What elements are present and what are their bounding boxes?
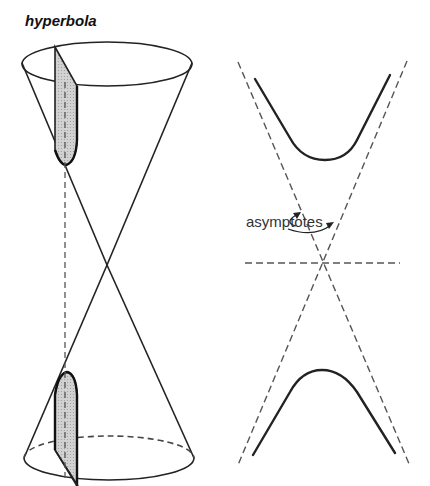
- lower-cone-rim-front: [24, 458, 194, 480]
- asymptote-1: [238, 62, 410, 466]
- lower-section: [55, 372, 78, 486]
- hyperbola-diagram: [0, 0, 430, 486]
- upper-cone-right-edge: [107, 63, 192, 265]
- upper-cone-rim: [22, 42, 192, 86]
- asymptotes-label: asymptotes: [246, 213, 323, 230]
- asymptotes: [238, 61, 410, 466]
- lower-cone-right-edge: [107, 265, 194, 458]
- lower-cone-rim-back: [24, 436, 194, 458]
- upper-section: [55, 47, 77, 165]
- lower-branch: [253, 370, 395, 455]
- double-cone: [22, 42, 194, 480]
- upper-branch: [255, 75, 390, 160]
